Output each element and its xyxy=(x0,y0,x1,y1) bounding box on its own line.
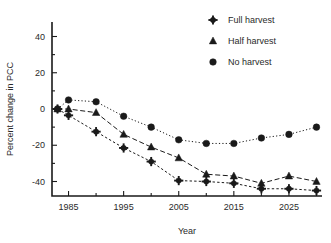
series-no-harvest xyxy=(54,97,320,147)
data-point-star-icon xyxy=(119,143,128,152)
data-point-star-icon xyxy=(91,127,100,136)
data-point-triangle-icon xyxy=(148,143,155,150)
y-tick-label: -20 xyxy=(32,140,45,150)
chart-page: 40200-20-4019851995200520152025YearPerce… xyxy=(0,0,331,243)
data-point-circle-icon xyxy=(65,97,72,104)
data-point-triangle-icon xyxy=(120,130,127,137)
y-axis-title: Percent change in PCC xyxy=(5,61,15,156)
legend-marker-circle-icon xyxy=(210,59,217,66)
x-tick-label: 2025 xyxy=(279,202,299,212)
legend-item-1[interactable]: Half harvest xyxy=(209,36,276,46)
legend-marker-triangle-icon xyxy=(209,37,216,44)
data-point-star-icon xyxy=(312,186,321,195)
series-line-2 xyxy=(58,100,317,144)
data-point-circle-icon xyxy=(231,140,238,147)
legend-marker-star-icon xyxy=(208,15,217,24)
legend-label-2: No harvest xyxy=(228,57,272,67)
data-point-star-icon xyxy=(202,177,211,186)
data-point-circle-icon xyxy=(203,140,210,147)
data-point-circle-icon xyxy=(54,106,61,113)
data-point-circle-icon xyxy=(258,135,265,142)
data-point-circle-icon xyxy=(175,137,182,144)
x-tick-label: 1985 xyxy=(59,202,79,212)
data-point-triangle-icon xyxy=(285,172,292,179)
x-axis: 19851995200520152025 xyxy=(59,191,317,212)
data-point-circle-icon xyxy=(120,113,127,120)
data-point-circle-icon xyxy=(93,98,100,105)
data-point-star-icon xyxy=(284,184,293,193)
data-point-triangle-icon xyxy=(65,105,72,112)
x-axis-title: Year xyxy=(178,226,196,236)
legend-item-2[interactable]: No harvest xyxy=(210,57,272,67)
series-line-0 xyxy=(58,109,317,191)
data-point-circle-icon xyxy=(286,131,293,138)
data-point-triangle-icon xyxy=(203,170,210,177)
x-tick-label: 2015 xyxy=(224,202,244,212)
legend-item-0[interactable]: Full harvest xyxy=(208,15,275,25)
data-point-circle-icon xyxy=(148,124,155,131)
data-point-star-icon xyxy=(147,157,156,166)
legend-label-0: Full harvest xyxy=(228,15,275,25)
legend-label-1: Half harvest xyxy=(228,36,277,46)
legend: Full harvestHalf harvestNo harvest xyxy=(208,15,276,67)
data-point-triangle-icon xyxy=(92,109,99,116)
percent-change-in-pcc-line-chart: 40200-20-4019851995200520152025YearPerce… xyxy=(0,0,331,243)
series-half-harvest xyxy=(54,105,320,186)
data-point-star-icon xyxy=(174,176,183,185)
y-tick-label: 40 xyxy=(35,32,45,42)
axes-spines xyxy=(52,22,322,196)
data-point-circle-icon xyxy=(313,124,320,131)
series-line-1 xyxy=(58,109,317,183)
y-tick-label: 0 xyxy=(40,104,45,114)
x-tick-label: 1995 xyxy=(114,202,134,212)
y-tick-label: -40 xyxy=(32,177,45,187)
x-tick-label: 2005 xyxy=(169,202,189,212)
y-tick-label: 20 xyxy=(35,68,45,78)
axis-spine xyxy=(52,22,322,196)
data-point-star-icon xyxy=(229,179,238,188)
series-full-harvest xyxy=(53,104,321,195)
